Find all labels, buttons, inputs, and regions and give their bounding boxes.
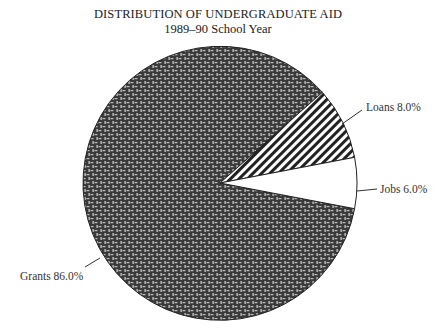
label-loans: Loans 8.0% — [366, 101, 421, 113]
leader-line-loans — [342, 110, 362, 124]
leader-line-grants — [85, 258, 100, 267]
pie-chart: Loans 8.0% Jobs 6.0% Grants 86.0% — [0, 0, 436, 334]
label-grants: Grants 86.0% — [20, 270, 84, 282]
label-jobs: Jobs 6.0% — [380, 183, 428, 195]
leader-line-jobs — [357, 189, 377, 191]
